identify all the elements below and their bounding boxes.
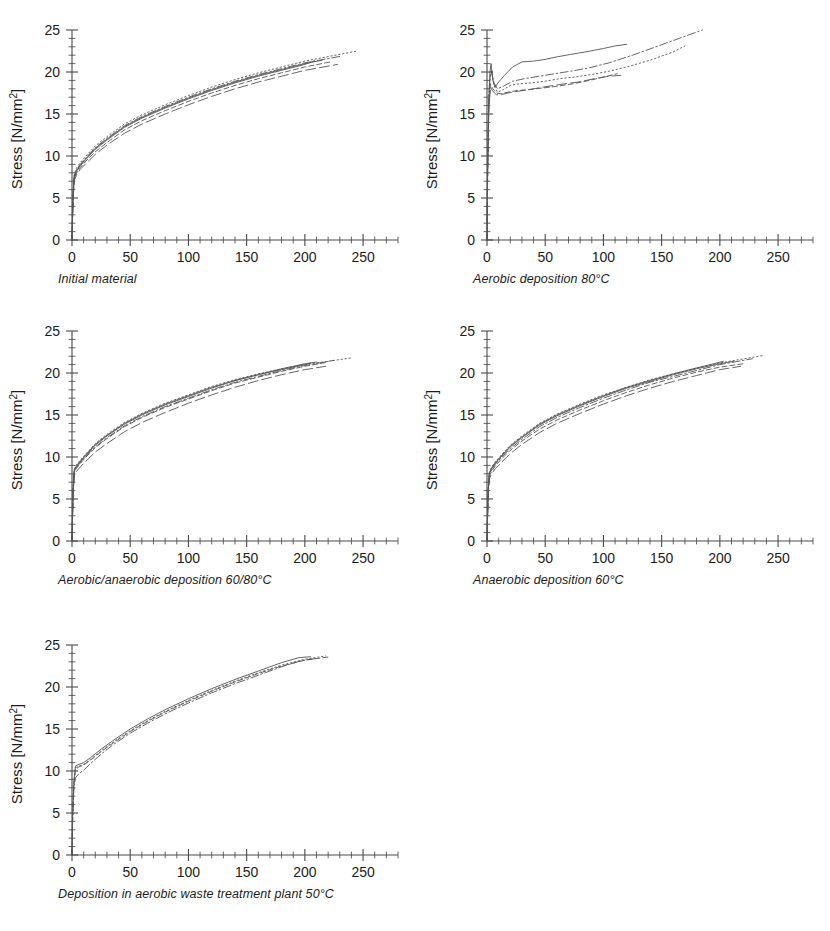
y-tick-label: 20 bbox=[459, 365, 475, 381]
svg-text:Stress [N/mm2]: Stress [N/mm2] bbox=[423, 390, 440, 491]
y-tick-label: 10 bbox=[459, 148, 475, 164]
y-tick-label: 15 bbox=[44, 407, 60, 423]
y-tick-labels: 0510152025 bbox=[44, 22, 60, 248]
x-tick-label: 200 bbox=[708, 249, 732, 265]
series-curve bbox=[72, 358, 351, 541]
chart-svg: 0501001502002500510152025Strain [%]Stres… bbox=[0, 303, 415, 575]
svg-text:Stress [N/mm2]: Stress [N/mm2] bbox=[8, 89, 25, 190]
y-tick-label: 25 bbox=[44, 22, 60, 38]
chart-panel-aerobic-80: 0501001502002500510152025Strain [%]Stres… bbox=[415, 2, 830, 312]
svg-text:Stress [N/mm2]: Stress [N/mm2] bbox=[8, 704, 25, 805]
x-tick-label: 50 bbox=[537, 249, 553, 265]
y-tick-label: 5 bbox=[467, 190, 475, 206]
x-tick-label: 150 bbox=[650, 550, 674, 566]
x-tick-label: 250 bbox=[766, 249, 790, 265]
x-tick-label: 150 bbox=[650, 249, 674, 265]
y-tick-label: 0 bbox=[467, 232, 475, 248]
plot-area-2: 0501001502002500510152025Strain [%]Stres… bbox=[0, 303, 415, 575]
series-group bbox=[72, 358, 351, 541]
chart-svg: 0501001502002500510152025Strain [%]Stres… bbox=[0, 617, 415, 889]
y-tick-label: 5 bbox=[52, 805, 60, 821]
series-curve bbox=[72, 362, 317, 541]
x-tick-labels: 050100150200250 bbox=[483, 550, 790, 566]
x-tick-label: 150 bbox=[235, 864, 259, 880]
series-curve bbox=[487, 75, 621, 240]
series-group bbox=[487, 30, 702, 240]
stress-strain-figure-grid: 0501001502002500510152025Strain [%]Stres… bbox=[0, 0, 830, 931]
y-tick-label: 25 bbox=[44, 323, 60, 339]
y-tick-label: 25 bbox=[459, 22, 475, 38]
x-tick-label: 150 bbox=[235, 249, 259, 265]
x-tick-label: 200 bbox=[708, 550, 732, 566]
series-curve bbox=[72, 56, 342, 240]
series-curve bbox=[487, 74, 617, 240]
x-tick-label: 50 bbox=[122, 864, 138, 880]
y-tick-label: 25 bbox=[44, 637, 60, 653]
y-tick-label: 0 bbox=[52, 533, 60, 549]
series-curve bbox=[487, 359, 752, 541]
series-curve bbox=[72, 51, 357, 240]
series-curve bbox=[487, 355, 764, 541]
chart-panel-aerobic-waste-plant-50: 0501001502002500510152025Strain [%]Stres… bbox=[0, 617, 415, 927]
x-tick-label: 50 bbox=[122, 550, 138, 566]
series-curve bbox=[72, 360, 334, 541]
x-tick-label: 100 bbox=[592, 550, 616, 566]
axes bbox=[66, 30, 398, 246]
y-tick-labels: 0510152025 bbox=[44, 323, 60, 549]
series-curve bbox=[72, 61, 314, 240]
x-tick-labels: 050100150200250 bbox=[68, 864, 375, 880]
x-tick-labels: 050100150200250 bbox=[68, 550, 375, 566]
x-tick-label: 0 bbox=[68, 550, 76, 566]
y-tick-label: 0 bbox=[52, 232, 60, 248]
series-curve bbox=[72, 64, 337, 240]
series-curve bbox=[72, 362, 328, 541]
series-curve bbox=[72, 62, 330, 240]
series-curve bbox=[72, 658, 317, 855]
x-tick-label: 100 bbox=[177, 864, 201, 880]
series-curve bbox=[487, 30, 702, 240]
axes bbox=[481, 331, 813, 547]
series-group bbox=[487, 355, 764, 541]
chart-caption-0: Initial material bbox=[58, 272, 137, 286]
x-tick-label: 50 bbox=[122, 249, 138, 265]
y-tick-label: 20 bbox=[44, 679, 60, 695]
series-curve bbox=[72, 657, 311, 855]
y-tick-label: 15 bbox=[44, 106, 60, 122]
series-curve bbox=[72, 656, 326, 855]
plot-area-0: 0501001502002500510152025Strain [%]Stres… bbox=[0, 2, 415, 274]
plot-area-3: 0501001502002500510152025Strain [%]Stres… bbox=[415, 303, 830, 575]
svg-text:Stress [N/mm2]: Stress [N/mm2] bbox=[423, 89, 440, 190]
chart-panel-aerobic-anaerobic-60-80: 0501001502002500510152025Strain [%]Stres… bbox=[0, 303, 415, 613]
x-tick-label: 0 bbox=[483, 249, 491, 265]
x-tick-label: 100 bbox=[592, 249, 616, 265]
x-tick-label: 100 bbox=[177, 550, 201, 566]
y-tick-label: 15 bbox=[44, 721, 60, 737]
y-tick-label: 25 bbox=[459, 323, 475, 339]
y-tick-label: 20 bbox=[459, 64, 475, 80]
x-tick-labels: 050100150200250 bbox=[68, 249, 375, 265]
series-curve bbox=[72, 657, 330, 855]
y-tick-labels: 0510152025 bbox=[459, 22, 475, 248]
series-curve bbox=[72, 363, 311, 541]
chart-caption-2: Aerobic/anaerobic deposition 60/80°C bbox=[58, 573, 272, 587]
y-axis-title: Stress [N/mm2] bbox=[423, 89, 440, 190]
x-tick-label: 0 bbox=[483, 550, 491, 566]
y-tick-label: 10 bbox=[44, 763, 60, 779]
x-tick-labels: 050100150200250 bbox=[483, 249, 790, 265]
y-tick-labels: 0510152025 bbox=[44, 637, 60, 863]
y-tick-label: 0 bbox=[467, 533, 475, 549]
y-tick-label: 5 bbox=[52, 190, 60, 206]
series-curve bbox=[487, 46, 685, 240]
chart-svg: 0501001502002500510152025Strain [%]Stres… bbox=[415, 303, 830, 575]
chart-caption-1: Aerobic deposition 80°C bbox=[473, 272, 610, 286]
y-tick-labels: 0510152025 bbox=[459, 323, 475, 549]
plot-area-4: 0501001502002500510152025Strain [%]Stres… bbox=[0, 617, 415, 889]
x-tick-label: 250 bbox=[351, 249, 375, 265]
axes bbox=[481, 30, 813, 246]
x-tick-label: 0 bbox=[68, 249, 76, 265]
y-tick-label: 10 bbox=[44, 449, 60, 465]
x-tick-label: 250 bbox=[351, 550, 375, 566]
y-tick-label: 5 bbox=[467, 491, 475, 507]
series-curve bbox=[487, 361, 723, 541]
y-axis-title: Stress [N/mm2] bbox=[8, 390, 25, 491]
